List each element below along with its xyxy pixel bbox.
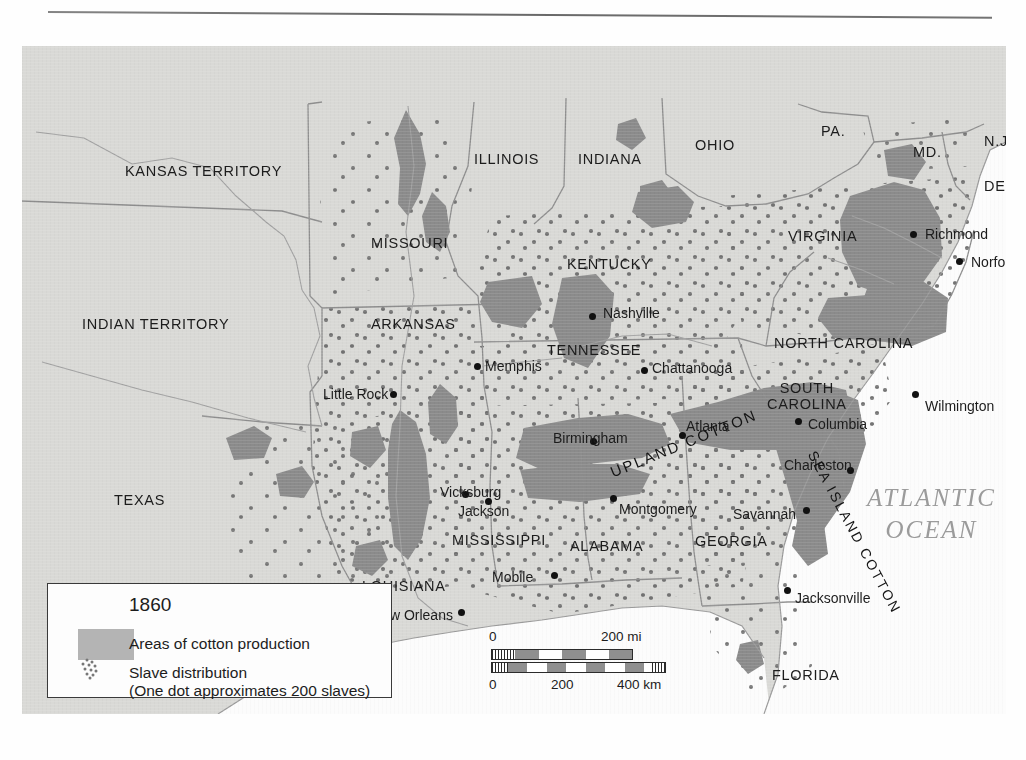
city-label: Norfolk bbox=[971, 255, 1006, 269]
city-dot-icon bbox=[795, 418, 802, 425]
city-dot-icon bbox=[474, 363, 481, 370]
ocean-label-line-2: OCEAN bbox=[867, 514, 996, 546]
state-label: ARKANSAS bbox=[371, 317, 456, 332]
city-dot-icon bbox=[610, 495, 617, 502]
city-label: Jacksonville bbox=[795, 591, 870, 605]
city-dot-icon bbox=[912, 391, 919, 398]
legend-cotton-label: Areas of cotton production bbox=[129, 635, 310, 653]
state-label: INDIAN TERRITORY bbox=[82, 317, 229, 332]
city-label: Montgomery bbox=[619, 502, 697, 516]
scanned-page: KANSAS TERRITORYMISSOURIINDIAN TERRITORY… bbox=[0, 0, 1026, 760]
state-label: SOUTHCAROLINA bbox=[767, 381, 847, 412]
ocean-label-line-1: ATLANTIC bbox=[867, 482, 996, 514]
scale-km-end: 400 km bbox=[617, 677, 661, 692]
scale-km-mid: 200 bbox=[551, 677, 574, 692]
city-label: Columbia bbox=[808, 417, 867, 431]
state-label: NORTH CAROLINA bbox=[774, 336, 913, 351]
state-label: ALABAMA bbox=[570, 539, 643, 554]
legend-year: 1860 bbox=[129, 594, 171, 616]
state-label: ILLINOIS bbox=[474, 152, 539, 167]
city-dot-icon bbox=[956, 258, 963, 265]
city-label: Savannah bbox=[733, 507, 796, 521]
city-dot-icon bbox=[589, 313, 596, 320]
state-label-line: CAROLINA bbox=[767, 397, 847, 413]
city-dot-icon bbox=[458, 609, 465, 616]
state-label: KENTUCKY bbox=[567, 257, 652, 272]
city-dot-icon bbox=[803, 507, 810, 514]
state-label: MISSISSIPPI bbox=[452, 533, 546, 548]
state-label: DEL. bbox=[984, 179, 1006, 194]
cotton-swatch-icon bbox=[78, 629, 134, 660]
state-label: KANSAS TERRITORY bbox=[125, 164, 282, 179]
city-dot-icon bbox=[641, 367, 648, 374]
city-label: Jackson bbox=[458, 504, 509, 518]
city-dot-icon bbox=[551, 572, 558, 579]
city-label: Mobile bbox=[492, 570, 533, 584]
state-label-line: SOUTH bbox=[767, 381, 847, 397]
city-label: Wilmington bbox=[925, 399, 994, 413]
state-label: INDIANA bbox=[578, 152, 642, 167]
city-label: Nashville bbox=[603, 306, 660, 320]
legend-slave-title: Slave distribution bbox=[129, 664, 370, 682]
atlantic-ocean-label: ATLANTIC OCEAN bbox=[867, 482, 996, 546]
city-label: Chattanooga bbox=[652, 361, 732, 375]
state-label: MISSOURI bbox=[371, 236, 448, 251]
legend-slave-label: Slave distribution (One dot approximates… bbox=[129, 664, 370, 701]
scale-miles-start: 0 bbox=[489, 629, 497, 644]
state-label: VIRGINIA bbox=[788, 229, 857, 244]
state-label: TENNESSEE bbox=[547, 343, 641, 358]
state-label: N.J. bbox=[984, 134, 1006, 149]
city-dot-icon bbox=[910, 231, 917, 238]
page-top-rule bbox=[48, 11, 992, 19]
city-label: Birmingham bbox=[553, 431, 628, 445]
city-label: Richmond bbox=[925, 227, 988, 241]
state-label: FLORIDA bbox=[772, 668, 840, 683]
scale-bar-miles bbox=[491, 649, 633, 660]
scale-km-start: 0 bbox=[489, 677, 497, 692]
city-label: Memphis bbox=[485, 359, 542, 373]
city-dot-icon bbox=[784, 587, 791, 594]
state-label: TEXAS bbox=[114, 493, 165, 508]
slave-dot-cluster-icon bbox=[78, 657, 104, 683]
city-label: Vicksburg bbox=[440, 485, 501, 499]
state-label: PA. bbox=[821, 124, 845, 139]
legend-slave-sub: (One dot approximates 200 slaves) bbox=[129, 682, 370, 700]
city-label: Little Rock bbox=[323, 387, 388, 401]
state-label: GEORGIA bbox=[695, 534, 768, 549]
state-label: MD. bbox=[913, 145, 942, 160]
scale-bar-km bbox=[491, 662, 666, 673]
scale-miles-end: 200 mi bbox=[601, 629, 642, 644]
city-dot-icon bbox=[390, 391, 397, 398]
scale-bar: 0 200 mi 0 200 400 km bbox=[489, 629, 685, 697]
state-label: OHIO bbox=[695, 138, 735, 153]
